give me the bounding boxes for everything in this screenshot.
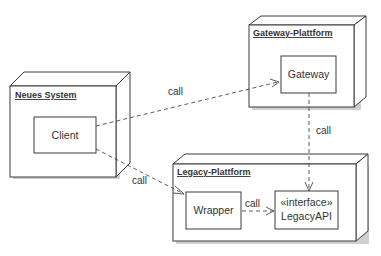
edge-label: call (168, 86, 183, 97)
node-title: Legacy-Plattform (177, 167, 251, 177)
component-gateway[interactable]: Gateway (281, 56, 336, 93)
component-client[interactable]: Client (34, 117, 96, 153)
node-top-face (10, 72, 130, 86)
component-stereotype: «interface» (281, 196, 333, 208)
edge-label: call (245, 198, 260, 209)
node-title: Neues System (15, 90, 77, 100)
node-top-face (173, 154, 368, 164)
edge-label: call (316, 125, 331, 136)
component-label: LegacyAPI (281, 210, 332, 222)
node-side-face (356, 154, 368, 241)
node-side-face (116, 72, 130, 177)
component-label: Gateway (288, 68, 330, 80)
component-label: Client (52, 129, 79, 141)
edge-label: call (132, 175, 147, 186)
node-title: Gateway-Plattform (253, 28, 333, 38)
component-label: Wrapper (193, 204, 234, 216)
node-top-face (249, 16, 366, 25)
component-wrapper[interactable]: Wrapper (186, 192, 241, 229)
component-legacyapi[interactable]: «interface» LegacyAPI (275, 191, 338, 229)
node-side-face (354, 16, 366, 107)
deployment-diagram: Neues System Gateway-Plattform Legacy-Pl… (0, 0, 381, 256)
